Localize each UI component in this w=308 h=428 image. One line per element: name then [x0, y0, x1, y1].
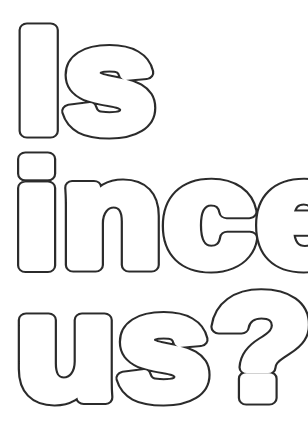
line-3-text: us? [16, 266, 308, 428]
line-3-group: us? us? [16, 266, 308, 428]
poster-svg: Is Is ince ince us? us? [0, 0, 308, 428]
outlined-text-poster: Is Is ince ince us? us? [0, 0, 308, 428]
